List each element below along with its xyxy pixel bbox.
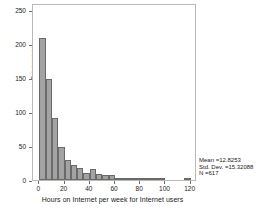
- x-tick-mark: [89, 181, 90, 184]
- x-tick-mark: [64, 181, 65, 184]
- x-tick-label: 0: [36, 186, 40, 193]
- y-tick-label: 150: [15, 76, 26, 83]
- plot-area: [32, 4, 196, 181]
- x-tick-mark: [164, 181, 165, 184]
- x-axis-tick-labels: 020406080100120: [0, 181, 262, 195]
- x-tick-label: 20: [60, 186, 67, 193]
- histogram-bars: [33, 5, 195, 180]
- x-tick-label: 40: [85, 186, 92, 193]
- histogram-bar: [159, 178, 165, 180]
- histogram-bar: [184, 178, 190, 180]
- y-tick-label: 100: [15, 110, 26, 117]
- x-tick-mark: [38, 181, 39, 184]
- x-tick-mark: [139, 181, 140, 184]
- y-tick-label: 200: [15, 42, 26, 49]
- y-tick-label: 50: [19, 144, 26, 151]
- x-tick-label: 60: [110, 186, 117, 193]
- x-tick-label: 80: [136, 186, 143, 193]
- stat-mean: Mean =12.8253: [199, 157, 253, 164]
- x-axis-title: Hours on Internet per week for Internet …: [0, 196, 225, 203]
- x-tick-label: 100: [159, 186, 170, 193]
- x-tick-mark: [190, 181, 191, 184]
- stat-stddev: Std. Dev. =15.32088: [199, 164, 253, 171]
- statistics-annotation: Mean =12.8253 Std. Dev. =15.32088 N =617: [199, 157, 253, 177]
- x-tick-mark: [114, 181, 115, 184]
- x-tick-label: 120: [184, 186, 195, 193]
- stat-n: N =617: [199, 170, 253, 177]
- histogram-figure: Frequency 050100150200250 02040608010012…: [0, 0, 262, 213]
- y-tick-label: 250: [15, 8, 26, 15]
